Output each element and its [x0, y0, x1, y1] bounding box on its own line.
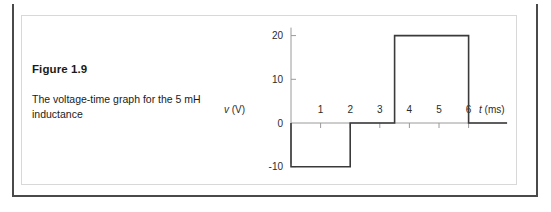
x-axis-title: t (ms)	[479, 104, 505, 115]
waveform-line	[291, 36, 507, 167]
y-tick-labels: -1001020	[269, 30, 284, 172]
frame-rule-left	[12, 4, 14, 197]
x-tick-label: 3	[377, 104, 383, 115]
y-axis-title: v (V)	[224, 104, 245, 115]
y-tick-label: 10	[272, 74, 284, 85]
figure-caption-block: Figure 1.9 The voltage-time graph for th…	[32, 62, 222, 121]
y-tick-label: 20	[272, 30, 284, 41]
x-tick-label: 4	[407, 104, 413, 115]
figure-root: Figure 1.9 The voltage-time graph for th…	[0, 0, 551, 212]
chart-svg: -1001020 123456 v (V) t (ms)	[222, 15, 532, 190]
figure-number-label: Figure 1.9	[32, 62, 222, 76]
y-tick-label: -10	[269, 161, 284, 172]
frame-rule-right	[536, 4, 538, 197]
frame-rule-bottom	[12, 195, 538, 197]
x-tick-label: 2	[347, 104, 353, 115]
x-tick-label: 1	[318, 104, 324, 115]
figure-caption-text: The voltage-time graph for the 5 mH indu…	[32, 92, 222, 121]
waveform-polyline	[291, 36, 507, 167]
y-tick-label: 0	[277, 118, 283, 129]
x-tick-label: 5	[436, 104, 442, 115]
voltage-time-chart: -1001020 123456 v (V) t (ms)	[222, 15, 532, 190]
